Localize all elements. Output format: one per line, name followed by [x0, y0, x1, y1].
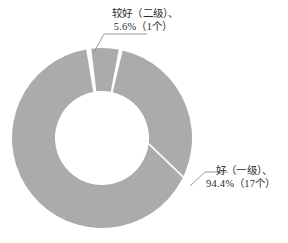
- callout-label-good: 好（一级）、 94.4%（17个）: [206, 164, 276, 190]
- donut-chart-graphic: [0, 0, 288, 243]
- callout-top-line2: 5.6%（1个）: [112, 20, 178, 33]
- callout-top-line1: 较好（二级）、: [112, 7, 178, 20]
- callout-bottom-line2: 94.4%（17个）: [206, 177, 276, 190]
- donut-chart: 较好（二级）、 5.6%（1个） 好（一级）、 94.4%（17个）: [0, 0, 288, 243]
- callout-label-fairly-good: 较好（二级）、 5.6%（1个）: [112, 7, 178, 33]
- callout-bottom-line1: 好（一级）、: [206, 164, 276, 177]
